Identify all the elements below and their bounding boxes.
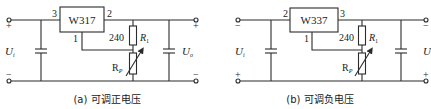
- output-top-polarity: −: [423, 20, 429, 31]
- rp-sub: P: [348, 68, 353, 74]
- svg-text:U: U: [423, 45, 431, 57]
- caption-a: (a) 可调正电压: [73, 93, 140, 105]
- svg-text:Ui: Ui: [235, 45, 245, 58]
- adjust-wire: [82, 32, 133, 50]
- output-voltage-label: U: [423, 45, 431, 57]
- input-capacitor: [35, 20, 47, 81]
- pin-left-label: 2: [283, 8, 288, 19]
- input-top-polarity: −: [235, 20, 241, 31]
- r1-sub: 1: [375, 38, 378, 44]
- r1-sub: 1: [146, 38, 149, 44]
- svg-text:R1: R1: [139, 32, 149, 44]
- svg-text:R1: R1: [368, 32, 378, 44]
- output-bottom-polarity: −: [193, 69, 199, 80]
- r1-value-label: 240: [109, 32, 124, 43]
- input-voltage-sub: i: [13, 52, 15, 58]
- input-capacitor: [265, 20, 277, 81]
- pin-right-label: 2: [107, 8, 112, 19]
- input-bottom-polarity: +: [235, 69, 241, 80]
- pin-adj-label: 1: [304, 33, 309, 44]
- resistor-r1: [130, 26, 137, 45]
- regulator-label: W337: [301, 14, 328, 26]
- caption-b: (b) 可调负电压: [286, 93, 353, 105]
- svg-text:RP: RP: [112, 62, 123, 74]
- circuit-a: W317 3 2 1 240 R1 RP + − + − Ui Uo: [5, 7, 199, 105]
- regulator-label: W317: [69, 14, 96, 26]
- input-bottom-polarity: −: [6, 69, 12, 80]
- pin-left-label: 3: [52, 8, 57, 19]
- adjust-wire: [312, 32, 362, 50]
- regulator-circuits-diagram: W317 3 2 1 240 R1 RP + − + − Ui Uo: [0, 0, 431, 109]
- output-bottom-polarity: +: [423, 69, 429, 80]
- pin-right-label: 3: [340, 8, 345, 19]
- r1-label: R: [139, 32, 146, 43]
- svg-text:RP: RP: [342, 62, 353, 74]
- pin-adj-label: 1: [73, 33, 78, 44]
- output-top-polarity: +: [193, 20, 199, 31]
- rp-sub: P: [118, 68, 123, 74]
- potentiometer-rp: [130, 53, 137, 74]
- variable-arrow-icon: [126, 50, 142, 76]
- r1-value-label: 240: [339, 32, 354, 43]
- potentiometer-rp: [359, 53, 366, 74]
- input-voltage-sub: i: [243, 52, 245, 58]
- r1-label: R: [368, 32, 375, 43]
- circuit-b: W337 2 3 1 240 R1 RP − + − + Ui U (b) 可调…: [235, 8, 431, 105]
- output-capacitor: [395, 20, 407, 81]
- output-voltage-sub: o: [190, 52, 193, 58]
- svg-text:Uo: Uo: [182, 45, 193, 58]
- variable-arrow-icon: [355, 50, 371, 76]
- input-top-polarity: +: [6, 20, 12, 31]
- resistor-r1: [359, 26, 366, 45]
- svg-text:Ui: Ui: [5, 45, 15, 58]
- output-capacitor: [163, 20, 175, 81]
